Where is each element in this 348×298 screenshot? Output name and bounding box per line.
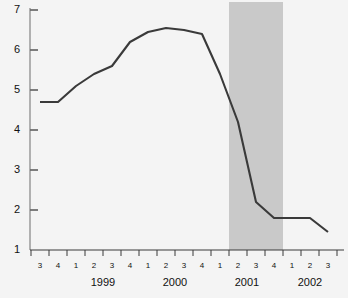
x-year-label: 1999 xyxy=(81,276,125,288)
x-quarter-label: 2 xyxy=(87,261,101,270)
x-year-label: 2000 xyxy=(153,276,197,288)
y-tick-label: 7 xyxy=(2,4,20,14)
y-tick-label: 6 xyxy=(2,44,20,54)
x-quarter-label: 2 xyxy=(303,261,317,270)
x-quarter-label: 3 xyxy=(177,261,191,270)
y-tick-label: 1 xyxy=(2,244,20,254)
x-quarter-label: 2 xyxy=(159,261,173,270)
x-quarter-label: 3 xyxy=(105,261,119,270)
plot-background xyxy=(0,0,348,298)
x-quarter-label: 3 xyxy=(321,261,335,270)
x-quarter-label: 1 xyxy=(213,261,227,270)
y-tick-label: 5 xyxy=(2,84,20,94)
x-year-label: 2001 xyxy=(225,276,269,288)
x-quarter-label: 4 xyxy=(267,261,281,270)
plot-area xyxy=(0,0,348,298)
x-quarter-label: 4 xyxy=(195,261,209,270)
x-quarter-label: 4 xyxy=(123,261,137,270)
recession-shaded-band xyxy=(229,2,283,250)
x-year-label: 2002 xyxy=(288,276,332,288)
x-quarter-label: 3 xyxy=(33,261,47,270)
chart-container: Percent 1234567 34123412341234123 199920… xyxy=(0,0,348,298)
y-tick-label: 2 xyxy=(2,204,20,214)
x-quarter-label: 3 xyxy=(249,261,263,270)
x-quarter-label: 1 xyxy=(141,261,155,270)
x-quarter-label: 2 xyxy=(231,261,245,270)
x-quarter-label: 1 xyxy=(285,261,299,270)
x-quarter-label: 4 xyxy=(51,261,65,270)
y-tick-label: 4 xyxy=(2,124,20,134)
x-quarter-label: 1 xyxy=(69,261,83,270)
y-tick-label: 3 xyxy=(2,164,20,174)
